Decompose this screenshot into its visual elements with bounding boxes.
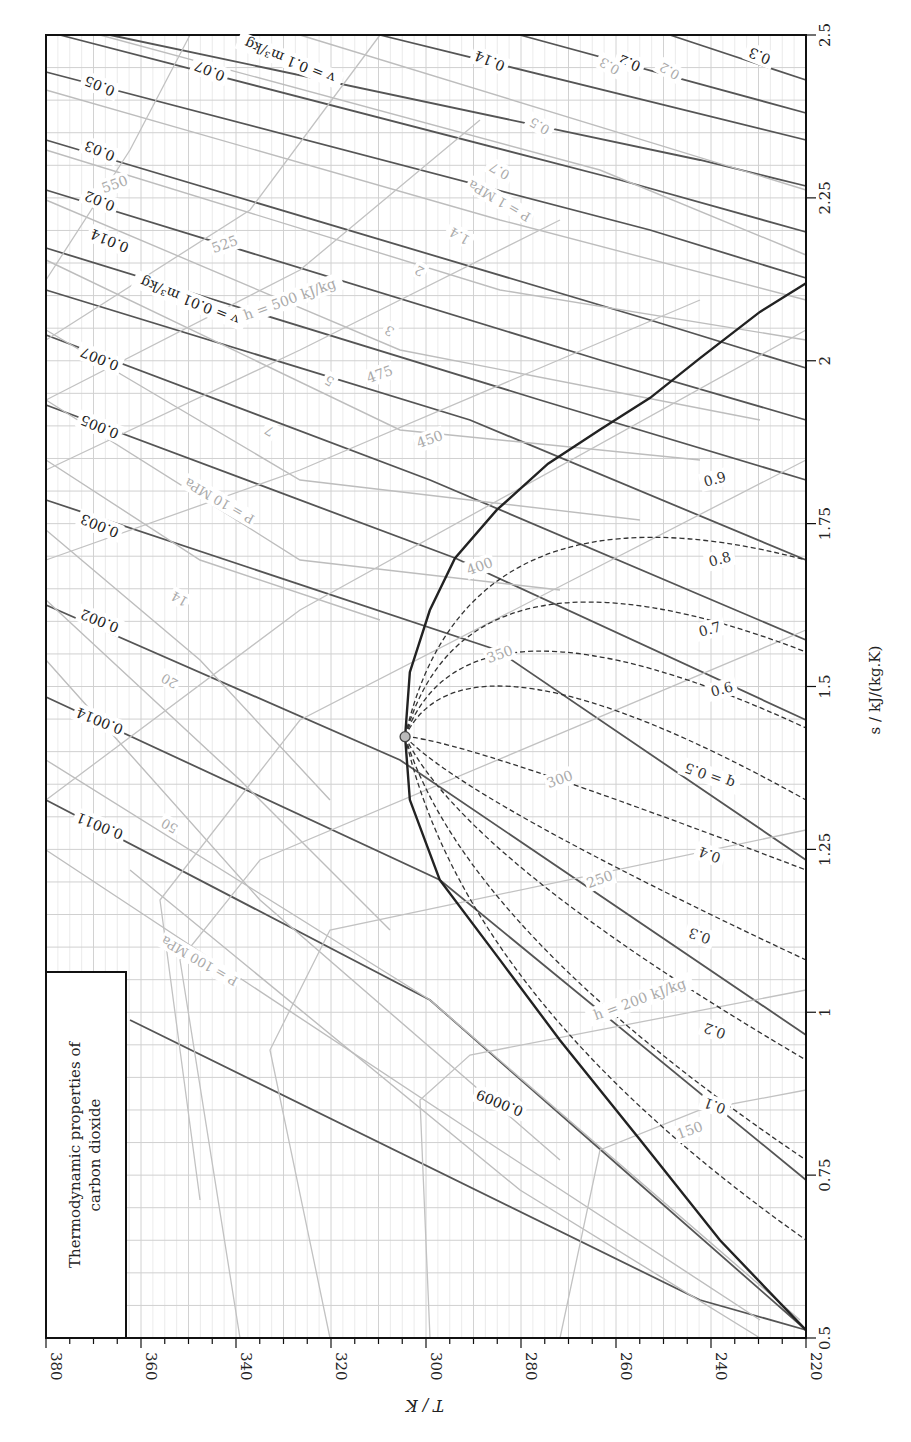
t-tick-label: 340 [237, 1352, 255, 1381]
t-tick-label: 240 [712, 1352, 730, 1381]
specific-volume-line [670, 35, 806, 80]
t-tick-label: 380 [47, 1352, 65, 1381]
enthalpy-label: 250 [584, 867, 615, 891]
t-tick-label: 300 [427, 1352, 445, 1381]
s-tick-label: 2.5 [816, 23, 834, 47]
t-tick-label: 220 [807, 1352, 825, 1381]
t-tick-label: 360 [142, 1352, 160, 1381]
specific-volume-label: 0.005 [78, 412, 121, 442]
ts-chart: 3803603403203002802602402200.50.7511.251… [0, 0, 911, 1442]
pressure-label: P = 1 MPa [465, 177, 533, 225]
s-tick-label: 2 [816, 356, 834, 366]
enthalpy-label: 150 [674, 1118, 705, 1142]
title-line-2: carbon dioxide [86, 1099, 104, 1212]
t-tick-label: 280 [522, 1352, 540, 1381]
enthalpy-label: 450 [414, 427, 445, 451]
grid-lines [46, 35, 806, 1338]
pressure-label: P = 10 MPa [182, 475, 257, 527]
specific-volume-label: 0.003 [78, 511, 121, 541]
enthalpy-label: 550 [99, 172, 130, 196]
specific-volume-label: 0.0009 [474, 1086, 525, 1119]
specific-volume-label: v = 0.1 m³/kg [242, 35, 338, 86]
title-box: Thermodynamic properties of carbon dioxi… [46, 972, 126, 1338]
t-tick-label: 320 [332, 1352, 350, 1381]
s-axis-label: s / kJ/(kg.K) [866, 646, 884, 735]
pressure-line [300, 35, 806, 190]
s-tick-label: 1.75 [816, 507, 834, 540]
specific-volume-line [60, 35, 806, 232]
critical-point-marker [400, 732, 410, 742]
title-line-1: Thermodynamic properties of [66, 1041, 84, 1268]
enthalpy-label: 300 [544, 767, 575, 791]
specific-volume-label: 0.007 [78, 344, 121, 374]
quality-line [405, 737, 806, 960]
quality-label: q = 0.5 [683, 760, 737, 793]
specific-volume-line [110, 35, 806, 186]
s-tick-label: 0.5 [816, 1326, 834, 1350]
s-tick-label: 1 [816, 1007, 834, 1017]
specific-volume-label: v = 0.01 m³/kg [138, 274, 243, 329]
s-tick-label: 0.75 [816, 1158, 834, 1191]
t-tick-label: 260 [617, 1352, 635, 1381]
s-tick-label: 1.25 [816, 833, 834, 866]
pressure-line [46, 600, 390, 930]
quality-line [405, 602, 806, 737]
specific-volume-label: 0.002 [78, 606, 121, 636]
quality-label: 0.6 [709, 678, 735, 699]
quality-line [405, 737, 806, 1240]
s-tick-label: 2.25 [816, 181, 834, 214]
enthalpy-label: 525 [209, 232, 240, 256]
quality-label: 0.9 [702, 468, 728, 489]
t-axis-label: T / K [405, 1396, 444, 1415]
enthalpy-line [270, 830, 806, 1338]
enthalpy-label: 350 [484, 642, 515, 666]
enthalpy-label: h = 500 kJ/kg [241, 275, 338, 323]
s-tick-label: 1.5 [816, 675, 834, 699]
